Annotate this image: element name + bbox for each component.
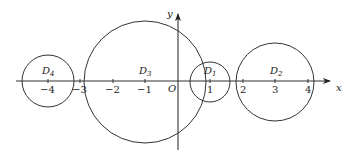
tick-label: 2 [240,84,246,95]
circles-diagram: x y O −4 −3 −2 −1 1 2 3 4 D4 D3 D1 D2 [0,0,355,159]
tick-label: −1 [137,84,152,95]
circle-label-d3: D3 [138,65,152,78]
tick-label: 1 [207,84,213,95]
circle-label-d2: D2 [269,65,283,78]
origin-label: O [168,83,176,94]
tick-label: −4 [40,84,55,95]
circle-label-d1: D1 [203,65,217,78]
tick-label: 4 [305,84,311,95]
x-axis-label: x [336,82,342,93]
circle-label-d4: D4 [41,65,55,78]
tick-label: 3 [272,84,278,95]
y-axis-label: y [166,8,173,19]
tick-label: −2 [105,84,120,95]
